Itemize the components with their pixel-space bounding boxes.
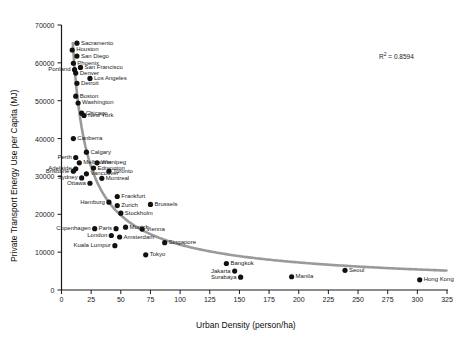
point-label: Hong Kong [424,276,454,283]
y-tick-label: 70000 [35,22,54,29]
point-label: Seoul [349,267,364,274]
x-tick-label: 325 [441,296,453,303]
data-point [71,61,76,66]
data-point [87,181,92,186]
point-label: Canberra [77,135,102,142]
y-tick-label: 50000 [35,97,54,104]
x-tick-label: 125 [204,296,216,303]
point-label: Montreal [106,175,129,182]
point-label: Perth [57,154,71,161]
data-point [148,202,153,207]
data-point [76,100,81,105]
x-axis-title: Urban Density (person/ha) [196,320,296,330]
point-label: Washington [82,99,113,106]
data-point [117,234,122,239]
data-point [84,171,89,176]
point-label: Amsterdam [124,234,155,241]
data-point [113,226,118,231]
point-label: Frankfurt [121,193,145,200]
data-point [74,41,79,46]
x-tick-label: 225 [323,296,335,303]
data-point [74,53,79,58]
y-axis-title: Private Transport Energy Use per Capita … [9,90,19,262]
point-label: Surabaya [211,274,237,281]
x-tick-label: 50 [117,296,125,303]
data-point [109,233,114,238]
r-squared-annotation: R2 = 0.8594 [379,51,414,60]
x-tick-label: 300 [412,296,424,303]
y-tick-label: 0 [51,287,55,294]
x-tick-label: 175 [263,296,275,303]
data-point [115,194,120,199]
x-tick-label: 150 [234,296,246,303]
point-label: Manila [296,273,314,280]
y-tick-label: 10000 [35,249,54,256]
point-label: Bangkok [230,260,253,267]
point-label: Copenhagen [56,225,90,232]
point-label: Ottawa [67,180,86,187]
data-point [115,203,120,208]
data-point [73,70,78,75]
point-label: London [87,232,107,239]
data-point [238,275,243,280]
point-label: Brussels [154,201,177,208]
data-point [74,81,79,86]
y-tick-label: 20000 [35,211,54,218]
scatter-chart: Private Transport Energy Use per Capita … [0,0,470,341]
x-tick-label: 250 [352,296,364,303]
data-point [73,94,78,99]
data-point [123,225,128,230]
x-tick-label: 0 [60,296,64,303]
data-point [77,160,82,165]
point-label: Vienna [146,226,165,233]
data-point [73,155,78,160]
point-label: Kuala Lumpur [74,242,111,249]
point-label: Tokyo [150,251,166,258]
point-label: San Diego [81,53,109,60]
data-point [289,274,294,279]
data-point [112,243,117,248]
data-point [118,211,123,216]
y-tick-label: 40000 [35,135,54,142]
x-tick-label: 25 [87,296,95,303]
data-point [342,268,347,273]
x-tick-label: 75 [147,296,155,303]
data-point [84,150,89,155]
data-point [71,136,76,141]
data-point [224,261,229,266]
data-point [92,226,97,231]
point-label: Stockholm [125,210,153,217]
data-point [106,200,111,205]
point-label: Zurich [121,202,138,209]
x-tick-label: 275 [382,296,394,303]
data-point [143,252,148,257]
point-label: Portland [48,66,70,73]
point-label: Detroit [81,80,99,87]
x-tick-label: 200 [293,296,305,303]
data-point [417,277,422,282]
point-label: Calgary [90,149,111,156]
x-tick-label: 100 [174,296,186,303]
data-point [70,47,75,52]
data-point [162,240,167,245]
point-label: Hamburg [80,199,105,206]
point-label: Singapore [169,239,196,246]
point-label: New York [88,112,113,119]
